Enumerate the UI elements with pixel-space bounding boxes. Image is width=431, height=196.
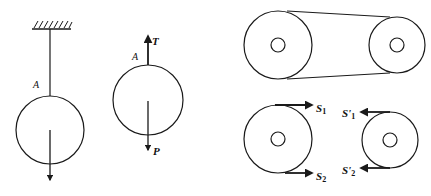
s2-prime-label: S'2 (342, 164, 355, 178)
right-pulley (362, 112, 418, 168)
s1-prime-label: S'1 (342, 107, 355, 121)
free-body-figure: T A P (113, 35, 183, 157)
belt-drive-figure (244, 11, 425, 79)
ceiling-hatch-icon (32, 21, 72, 29)
s1-label: S1 (316, 102, 326, 116)
left-pulley (244, 105, 312, 173)
large-pulley-hub (271, 38, 285, 52)
large-pulley (244, 11, 312, 79)
weight-label: P (153, 145, 160, 157)
suspended-ball-figure: A (16, 21, 84, 180)
mechanics-diagram: A T A P S1 S2 S'1 S'2 (0, 0, 431, 196)
tension-label: T (152, 35, 160, 47)
s2-label: S2 (316, 170, 326, 184)
left-pulley-hub (271, 132, 285, 146)
belt-top (287, 11, 390, 17)
belt-bottom (287, 73, 390, 79)
belt-forces-figure: S1 S2 S'1 S'2 (244, 102, 418, 184)
rope-label: A (32, 79, 40, 90)
small-pulley-hub (390, 38, 404, 52)
right-pulley-hub (383, 133, 397, 147)
small-pulley (369, 17, 425, 73)
point-label: A (131, 51, 139, 62)
